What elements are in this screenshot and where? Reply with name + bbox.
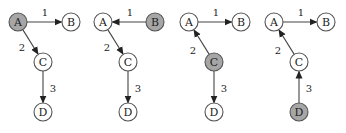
edge-c-to-a [194, 30, 209, 54]
edge-weight-label: 1 [298, 7, 304, 18]
node-a: A [9, 13, 27, 31]
node-label: D [124, 106, 133, 119]
node-d: D [290, 103, 308, 121]
node-a: A [94, 13, 112, 31]
node-a: A [265, 13, 283, 31]
node-label: C [124, 56, 132, 69]
edge-weight-label: 2 [104, 42, 110, 53]
node-d: D [205, 103, 223, 121]
graph-panel-1: 123ABCD [9, 7, 80, 122]
node-b: B [317, 13, 335, 31]
edge-weight-label: 3 [221, 83, 227, 94]
edge-weight-label: 2 [275, 45, 281, 56]
node-label: A [98, 16, 108, 29]
node-label: B [322, 16, 330, 29]
node-label: C [295, 56, 303, 69]
node-label: B [237, 16, 245, 29]
edge-weight-label: 3 [306, 83, 312, 94]
node-label: C [39, 56, 47, 69]
node-b: B [232, 13, 250, 31]
node-label: D [295, 106, 304, 119]
edge-weight-label: 3 [50, 83, 56, 94]
node-b: B [146, 13, 164, 31]
edge-weight-label: 2 [19, 42, 25, 53]
node-label: A [269, 16, 279, 29]
node-c: C [290, 53, 308, 71]
node-label: B [151, 16, 159, 29]
edge-weight-label: 1 [213, 7, 219, 18]
node-b: B [62, 13, 80, 31]
node-a: A [180, 13, 198, 31]
graph-panel-4: 123ABCD [265, 7, 335, 122]
edge-weight-label: 2 [190, 45, 196, 56]
node-label: D [210, 106, 219, 119]
graph-diagram: 123ABCD123ABCD123ABCD123ABCD [0, 0, 346, 133]
edge-weight-label: 3 [135, 83, 141, 94]
node-d: D [34, 103, 52, 121]
node-c: C [119, 53, 137, 71]
panels: 123ABCD123ABCD123ABCD123ABCD [9, 7, 335, 122]
edge-weight-label: 1 [42, 7, 48, 18]
node-c: C [205, 53, 223, 71]
node-c: C [34, 53, 52, 71]
node-label: B [67, 16, 75, 29]
node-d: D [119, 103, 137, 121]
node-label: A [184, 16, 194, 29]
node-label: D [39, 106, 48, 119]
graph-panel-2: 123ABCD [94, 7, 164, 122]
edge-c-to-a [279, 30, 294, 54]
node-label: A [13, 16, 23, 29]
node-label: C [210, 56, 218, 69]
edge-weight-label: 1 [127, 7, 133, 18]
graph-panel-3: 123ABCD [180, 7, 250, 122]
